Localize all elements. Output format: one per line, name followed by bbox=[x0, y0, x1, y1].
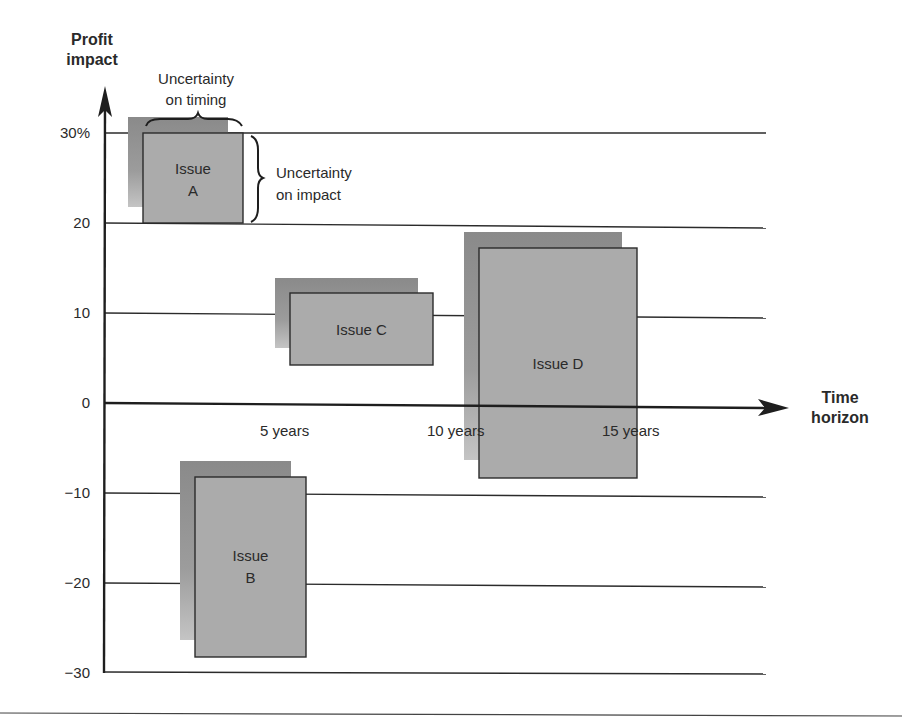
issue-a-label-line1: Issue bbox=[143, 158, 243, 180]
x-axis-title-line1: Time bbox=[800, 388, 880, 408]
impact-annotation-line1: Uncertainty bbox=[276, 162, 352, 184]
issue-a-label: Issue A bbox=[143, 158, 243, 202]
y-tick-neg10: −10 bbox=[30, 484, 90, 501]
y-axis-title-line1: Profit bbox=[52, 30, 132, 50]
gridline-20 bbox=[104, 223, 766, 228]
issue-a-label-line2: A bbox=[143, 180, 243, 202]
y-axis-title-line2: impact bbox=[52, 50, 132, 70]
y-axis bbox=[98, 86, 112, 673]
y-tick-neg20: −20 bbox=[30, 574, 90, 591]
y-tick-20: 20 bbox=[30, 214, 90, 231]
impact-annotation-line2: on impact bbox=[276, 184, 352, 206]
issue-b-label-line1: Issue bbox=[195, 545, 306, 567]
issue-c-label: Issue C bbox=[290, 321, 433, 338]
y-tick-neg30: −30 bbox=[30, 664, 90, 681]
issue-b-label-line2: B bbox=[195, 567, 306, 589]
x-tick-15-years: 15 years bbox=[602, 422, 660, 439]
impact-brace-icon bbox=[251, 136, 263, 222]
x-axis-title: Time horizon bbox=[800, 388, 880, 428]
y-tick-0: 0 bbox=[30, 394, 90, 411]
timing-annotation: Uncertainty on timing bbox=[136, 68, 256, 110]
gridline-neg30 bbox=[104, 672, 766, 674]
y-tick-10: 10 bbox=[30, 304, 90, 321]
y-tick-30: 30% bbox=[30, 124, 90, 141]
timing-annotation-line2: on timing bbox=[136, 89, 256, 110]
x-axis bbox=[104, 399, 789, 416]
gridline-10 bbox=[104, 313, 766, 318]
x-axis-title-line2: horizon bbox=[800, 408, 880, 428]
issue-d-label: Issue D bbox=[479, 355, 637, 372]
y-axis-title: Profit impact bbox=[52, 30, 132, 70]
issue-b-label: Issue B bbox=[195, 545, 306, 589]
bottom-separator bbox=[0, 713, 902, 716]
timing-annotation-line1: Uncertainty bbox=[136, 68, 256, 89]
x-tick-10-years: 10 years bbox=[427, 422, 485, 439]
x-tick-5-years: 5 years bbox=[260, 422, 309, 439]
impact-annotation: Uncertainty on impact bbox=[276, 162, 352, 206]
